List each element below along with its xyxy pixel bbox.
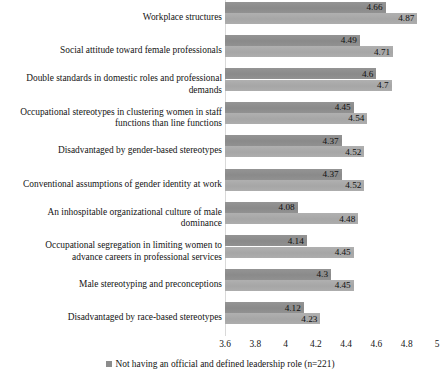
bar-row: Social attitude toward female profession… [0, 34, 441, 67]
bar-row: Occupational segregation in limiting wom… [0, 235, 441, 268]
x-axis-tick-label: 3.8 [249, 338, 261, 350]
bar-row: Workplace structures4.664.87 [0, 1, 441, 34]
category-label: An inhospitable organizational culture o… [2, 207, 222, 229]
x-axis-tick-label: 4.8 [401, 338, 413, 350]
bar-value-label: 4.08 [279, 202, 295, 212]
category-label: Disadvantaged by gender-based stereotype… [2, 146, 222, 157]
bar-row: Conventional assumptions of gender ident… [0, 168, 441, 201]
bar-value-label: 4.7 [377, 80, 388, 90]
bar-value-label: 4.48 [339, 214, 355, 224]
bar-row: Disadvantaged by race-based stereotypes4… [0, 302, 441, 335]
bar-series-dark: 4.66 [225, 2, 386, 13]
bar-value-label: 4.52 [345, 180, 361, 190]
bar-series-light: 4.52 [225, 146, 364, 157]
square-marker-icon [106, 361, 112, 367]
bar-series-light: 4.54 [225, 113, 367, 124]
bar-series-light: 4.23 [225, 313, 320, 324]
bar-row: Double standards in domestic roles and p… [0, 68, 441, 101]
bar-series-dark: 4.49 [225, 35, 360, 46]
x-axis-tick-label: 4.4 [340, 338, 352, 350]
bar-value-label: 4.6 [362, 69, 373, 79]
category-label: Occupational segregation in limiting wom… [2, 240, 222, 262]
category-label: Workplace structures [2, 12, 222, 23]
bar-series-light: 4.52 [225, 180, 364, 191]
category-label: Double standards in domestic roles and p… [2, 73, 222, 95]
bar-value-label: 4.45 [335, 102, 351, 112]
category-label: Male stereotyping and preconceptions [2, 279, 222, 290]
bar-series-dark: 4.37 [225, 135, 342, 146]
category-label: Disadvantaged by race-based stereotypes [2, 313, 222, 324]
bar-value-label: 4.87 [398, 13, 414, 23]
bar-value-label: 4.37 [323, 169, 339, 179]
bar-row: Occupational stereotypes in clustering w… [0, 101, 441, 134]
x-axis-tick-label: 4 [283, 338, 288, 350]
bar-series-dark: 4.08 [225, 202, 298, 213]
bar-value-label: 4.3 [317, 269, 328, 279]
bar-value-label: 4.12 [285, 303, 301, 313]
bar-value-label: 4.23 [301, 314, 317, 324]
x-axis: 3.63.844.24.44.64.85 [0, 336, 441, 354]
bar-value-label: 4.45 [335, 247, 351, 257]
bar-value-label: 4.14 [288, 236, 304, 246]
bar-series-light: 4.7 [225, 80, 392, 91]
bar-value-label: 4.45 [335, 280, 351, 290]
bar-series-light: 4.45 [225, 247, 354, 258]
bar-series-dark: 4.45 [225, 102, 354, 113]
bar-series-light: 4.48 [225, 213, 358, 224]
horizontal-bar-chart: Workplace structures4.664.87Social attit… [0, 0, 441, 374]
legend-label: Not having an official and defined leade… [115, 358, 334, 370]
bar-series-dark: 4.6 [225, 68, 376, 79]
bar-series-light: 4.71 [225, 46, 393, 57]
legend-item-0: Not having an official and defined leade… [106, 358, 334, 370]
plot-area: Workplace structures4.664.87Social attit… [0, 0, 441, 336]
bar-value-label: 4.49 [341, 35, 357, 45]
bar-series-light: 4.45 [225, 280, 354, 291]
x-axis-tick-label: 5 [435, 338, 440, 350]
bar-row: An inhospitable organizational culture o… [0, 201, 441, 234]
category-label: Occupational stereotypes in clustering w… [2, 107, 222, 129]
bar-row: Disadvantaged by gender-based stereotype… [0, 135, 441, 168]
x-axis-tick-label: 3.6 [219, 338, 231, 350]
bar-series-dark: 4.12 [225, 302, 304, 313]
bar-series-dark: 4.37 [225, 169, 342, 180]
x-axis-tick-label: 4.2 [310, 338, 322, 350]
bar-value-label: 4.54 [348, 113, 364, 123]
bar-series-light: 4.87 [225, 13, 417, 24]
bar-value-label: 4.37 [323, 136, 339, 146]
bar-value-label: 4.66 [366, 2, 382, 12]
bar-value-label: 4.71 [374, 47, 390, 57]
x-axis-tick-label: 4.6 [371, 338, 383, 350]
bar-value-label: 4.52 [345, 147, 361, 157]
chart-legend: Not having an official and defined leade… [0, 358, 441, 374]
bar-series-dark: 4.14 [225, 235, 307, 246]
bar-row: Male stereotyping and preconceptions4.34… [0, 268, 441, 301]
category-label: Social attitude toward female profession… [2, 45, 222, 56]
bar-series-dark: 4.3 [225, 269, 331, 280]
category-label: Conventional assumptions of gender ident… [2, 179, 222, 190]
